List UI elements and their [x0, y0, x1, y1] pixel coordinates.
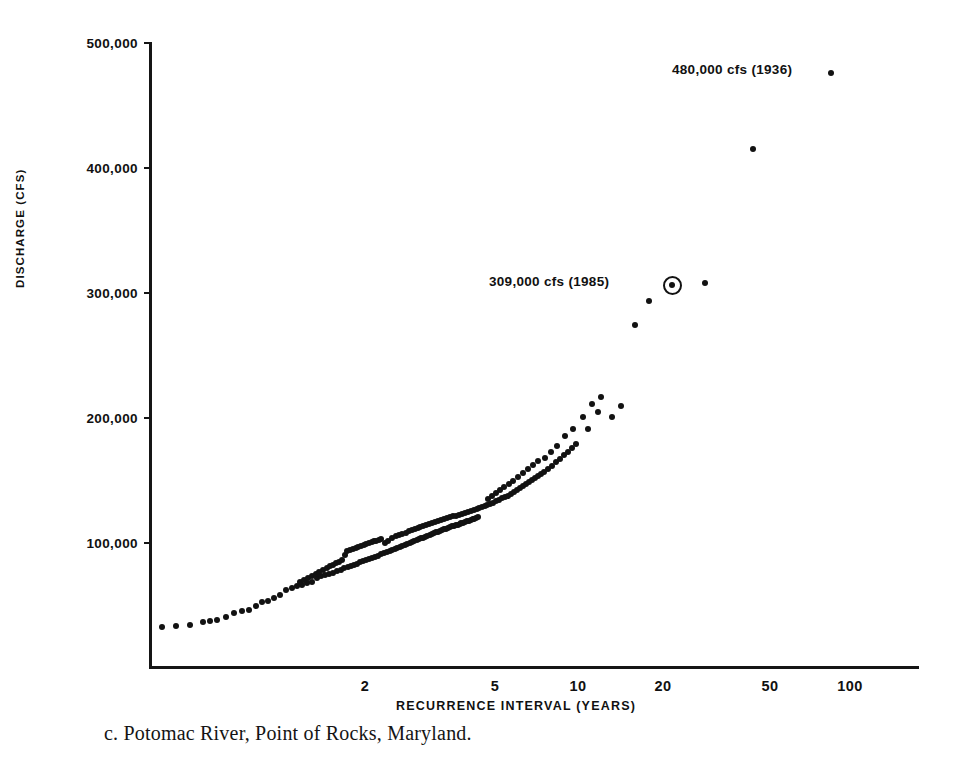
data-point [485, 496, 491, 502]
data-point [465, 509, 471, 515]
data-point [375, 553, 381, 559]
data-point [535, 458, 541, 464]
data-point [553, 459, 559, 465]
x-tick-label: 10 [569, 678, 586, 694]
data-point [324, 565, 330, 571]
data-point [468, 508, 474, 514]
data-point [341, 565, 347, 571]
data-point [339, 557, 345, 563]
data-point [344, 548, 350, 554]
data-point [330, 570, 336, 576]
data-point [253, 603, 259, 609]
data-point [476, 505, 482, 511]
data-point [453, 513, 459, 519]
data-point [445, 525, 451, 531]
scatter-points-layer [0, 0, 960, 761]
data-point [532, 475, 538, 481]
data-point [342, 552, 348, 558]
data-point [541, 469, 547, 475]
data-point [457, 521, 463, 527]
data-point [214, 617, 220, 623]
data-point [407, 540, 413, 546]
x-axis-title: RECURRENCE INTERVAL (YEARS) [0, 699, 960, 713]
data-point [333, 560, 339, 566]
data-point [207, 618, 213, 624]
data-point [489, 493, 495, 499]
data-point [589, 401, 595, 407]
data-point [548, 449, 554, 455]
y-tick-mark [144, 42, 152, 44]
data-point [484, 502, 490, 508]
data-point [347, 547, 353, 553]
y-tick-mark [144, 542, 152, 544]
data-point [471, 516, 477, 522]
data-point [378, 551, 384, 557]
data-point [427, 532, 433, 538]
data-point [420, 535, 426, 541]
data-point [459, 511, 465, 517]
data-point [450, 513, 456, 519]
data-point [223, 614, 229, 620]
figure-container: 500,000400,000300,000200,000100,000 2510… [0, 0, 960, 761]
data-point [435, 529, 441, 535]
data-point [702, 280, 708, 286]
data-point [609, 414, 615, 420]
data-point [501, 484, 507, 490]
data-point [336, 559, 342, 565]
data-point [449, 523, 455, 529]
data-point [320, 567, 326, 573]
data-point [561, 452, 567, 458]
data-point [358, 543, 364, 549]
data-point [549, 463, 555, 469]
y-tick-label: 200,000 [86, 411, 138, 426]
data-point [460, 520, 466, 526]
data-point [316, 569, 322, 575]
data-point [490, 500, 496, 506]
data-point [404, 541, 410, 547]
data-point [466, 518, 472, 524]
data-point [451, 523, 457, 529]
x-tick-label: 20 [654, 678, 671, 694]
data-point [355, 544, 361, 550]
data-point [455, 522, 461, 528]
data-point [246, 607, 252, 613]
data-point [557, 456, 563, 462]
data-point [414, 537, 420, 543]
data-point [382, 540, 388, 546]
data-point [376, 537, 382, 543]
data-point [351, 562, 357, 568]
data-point [304, 580, 310, 586]
data-point [399, 531, 405, 537]
data-point [515, 474, 521, 480]
data-point [363, 557, 369, 563]
data-point [314, 575, 320, 581]
data-point [416, 536, 422, 542]
data-point [618, 403, 624, 409]
data-point [239, 608, 245, 614]
data-point [423, 522, 429, 528]
data-point [392, 546, 398, 552]
data-point [595, 409, 601, 415]
data-point [447, 514, 453, 520]
data-point [373, 538, 379, 544]
data-point [474, 506, 480, 512]
y-tick-mark [144, 167, 152, 169]
data-point [289, 585, 295, 591]
data-point [381, 550, 387, 556]
data-point [406, 528, 412, 534]
data-point [393, 533, 399, 539]
data-point [334, 568, 340, 574]
y-tick-label: 300,000 [86, 286, 138, 301]
data-point [456, 512, 462, 518]
data-point [389, 535, 395, 541]
data-point [435, 518, 441, 524]
data-point [283, 587, 289, 593]
y-axis-line [149, 42, 152, 669]
data-point [330, 562, 336, 568]
data-point [399, 543, 405, 549]
data-point [439, 527, 445, 533]
annotation-peak-1936: 480,000 cfs (1936) [672, 62, 792, 77]
data-point [384, 549, 390, 555]
data-point [511, 489, 517, 495]
data-point [348, 563, 354, 569]
